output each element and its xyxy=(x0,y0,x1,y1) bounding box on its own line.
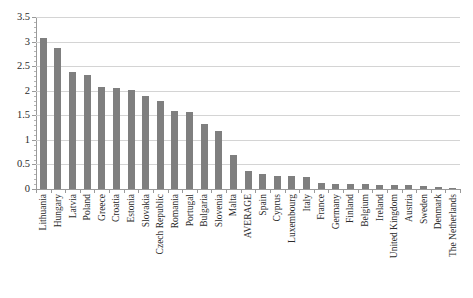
x-axis-category-label: Poland xyxy=(82,168,92,194)
x-axis-category-label: Cyprus xyxy=(272,167,282,194)
x-tick-mark xyxy=(124,189,125,193)
x-label-cell: Malta xyxy=(226,194,241,294)
x-axis-category-text: The Netherlands xyxy=(448,194,458,257)
x-label-cell: Denmark xyxy=(431,194,446,294)
x-tick-mark xyxy=(153,189,154,193)
x-axis-category-text: Slovakia xyxy=(140,194,150,227)
x-axis-category-text: Czech Republic xyxy=(155,194,165,254)
x-tick-mark xyxy=(168,189,169,193)
x-tick-mark xyxy=(138,189,139,193)
y-tick-label: 1.5 xyxy=(17,110,30,121)
bar-cell xyxy=(80,17,95,189)
x-axis-category-label: Sweden xyxy=(418,164,428,194)
x-axis-category-label: Denmark xyxy=(433,159,443,194)
x-axis-category-text: Greece xyxy=(97,194,107,221)
x-label-cell: AVERAGE xyxy=(241,194,256,294)
x-axis-category-label: Austria xyxy=(404,166,414,194)
x-label-cell: Spain xyxy=(255,194,270,294)
x-axis-category-label: Czech Republic xyxy=(155,134,165,194)
x-tick-mark xyxy=(314,189,315,193)
x-axis-category-text: Malta xyxy=(228,194,238,216)
bar-cell xyxy=(372,17,387,189)
x-tick-mark xyxy=(241,189,242,193)
x-tick-mark xyxy=(65,189,66,193)
x-axis-category-text: Croatia xyxy=(111,194,121,222)
bar-chart: 00.511.522.533.5 LithuaniaHungaryLatviaP… xyxy=(0,0,473,298)
x-axis-category-text: Latvia xyxy=(67,194,77,218)
x-axis-category-text: Germany xyxy=(331,194,341,229)
x-label-cell: Poland xyxy=(80,194,95,294)
x-axis-category-label: AVERAGE xyxy=(243,150,253,194)
x-axis-category-label: Slovakia xyxy=(140,161,150,194)
y-tick-label: 1 xyxy=(25,135,30,146)
x-tick-mark xyxy=(255,189,256,193)
bar-cell xyxy=(226,17,241,189)
x-label-cell: Greece xyxy=(95,194,110,294)
x-axis-category-text: Estonia xyxy=(126,194,136,223)
x-axis-category-label: Hungary xyxy=(53,161,63,194)
x-tick-mark xyxy=(270,189,271,193)
x-label-cell: Luxembourg xyxy=(285,194,300,294)
bar-cell xyxy=(402,17,417,189)
x-axis-category-label: Croatia xyxy=(111,166,121,194)
x-label-cell: Slovenia xyxy=(212,194,227,294)
x-label-cell: Estonia xyxy=(124,194,139,294)
x-axis-category-text: Lithuania xyxy=(38,194,48,230)
bar-cell xyxy=(255,17,270,189)
x-label-cell: Bulgaria xyxy=(197,194,212,294)
x-axis-category-label: France xyxy=(316,168,326,194)
x-axis-category-label: Germany xyxy=(331,159,341,194)
x-tick-mark xyxy=(94,189,95,193)
bar-cell xyxy=(124,17,139,189)
x-axis-category-text: Luxembourg xyxy=(287,194,297,243)
x-label-cell: Czech Republic xyxy=(153,194,168,294)
y-tick-label: 3.5 xyxy=(17,12,30,23)
x-label-cell: Germany xyxy=(329,194,344,294)
x-tick-mark xyxy=(372,189,373,193)
x-label-cell: United Kingdom xyxy=(387,194,402,294)
x-label-cell: Slovakia xyxy=(138,194,153,294)
x-tick-mark xyxy=(51,189,52,193)
x-axis-category-label: Latvia xyxy=(67,170,77,194)
x-tick-mark xyxy=(445,189,446,193)
x-axis-category-text: Romania xyxy=(170,194,180,228)
x-axis-labels: LithuaniaHungaryLatviaPolandGreeceCroati… xyxy=(36,194,460,294)
x-axis-category-label: United Kingdom xyxy=(389,130,399,194)
x-label-cell: Portugal xyxy=(182,194,197,294)
x-axis-category-label: The Netherlands xyxy=(448,131,458,194)
x-axis-category-text: Austria xyxy=(404,194,414,222)
x-tick-mark xyxy=(285,189,286,193)
x-tick-mark xyxy=(416,189,417,193)
x-axis-category-text: Spain xyxy=(257,194,267,216)
x-axis-category-text: Cyprus xyxy=(272,194,282,221)
x-tick-mark xyxy=(402,189,403,193)
x-label-cell: The Netherlands xyxy=(446,194,461,294)
x-axis-category-text: Finland xyxy=(345,194,355,223)
x-axis-category-label: Lithuania xyxy=(38,158,48,194)
x-label-cell: Belgium xyxy=(358,194,373,294)
x-label-cell: France xyxy=(314,194,329,294)
x-label-cell: Hungary xyxy=(51,194,66,294)
x-axis-category-label: Malta xyxy=(228,172,238,194)
x-axis-category-text: United Kingdom xyxy=(389,194,399,258)
x-label-cell: Latvia xyxy=(65,194,80,294)
x-axis-category-text: Italy xyxy=(301,194,311,211)
y-tick-label: 2.5 xyxy=(17,61,30,72)
bar-cell xyxy=(314,17,329,189)
y-tick-label: 0 xyxy=(25,184,30,195)
bar-cell xyxy=(65,17,80,189)
bar-cell xyxy=(343,17,358,189)
x-axis-category-label: Ireland xyxy=(374,167,384,194)
x-label-cell: Romania xyxy=(168,194,183,294)
bar-cell xyxy=(95,17,110,189)
x-axis-category-label: Finland xyxy=(345,165,355,194)
x-axis-category-label: Portugal xyxy=(184,162,194,194)
x-axis-category-text: Denmark xyxy=(433,194,443,229)
x-axis-category-label: Belgium xyxy=(360,161,370,194)
x-axis-category-text: Ireland xyxy=(374,194,384,221)
x-tick-mark xyxy=(358,189,359,193)
x-axis-category-text: Belgium xyxy=(360,194,370,227)
x-axis-category-label: Romania xyxy=(170,160,180,194)
x-axis-category-label: Greece xyxy=(97,167,107,194)
x-axis-category-text: Sweden xyxy=(418,194,428,224)
